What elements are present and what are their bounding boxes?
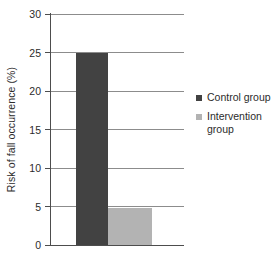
y-tick-label-15: 15 (15, 124, 41, 135)
y-tick-label-5: 5 (15, 201, 41, 212)
legend-item-intervention: Intervention group (196, 110, 278, 136)
y-tick-label-10: 10 (15, 163, 41, 174)
y-tick-label-20: 20 (15, 86, 41, 97)
x-axis-line (50, 245, 184, 246)
bar-intervention-group (108, 208, 152, 245)
legend: Control group Intervention group (196, 91, 278, 142)
bar-control-group (76, 53, 108, 246)
legend-swatch-control-icon (196, 95, 202, 101)
legend-item-control: Control group (196, 91, 278, 104)
legend-label-control: Control group (207, 91, 271, 104)
bar-chart: Risk of fall occurrence (%) 051015202530… (0, 0, 279, 259)
y-tick-label-0: 0 (15, 240, 41, 251)
legend-swatch-intervention-icon (196, 114, 202, 120)
plot-area (50, 14, 184, 245)
legend-label-intervention: Intervention group (207, 110, 278, 136)
y-tick-label-25: 25 (15, 47, 41, 58)
y-tick-label-30: 30 (15, 9, 41, 20)
